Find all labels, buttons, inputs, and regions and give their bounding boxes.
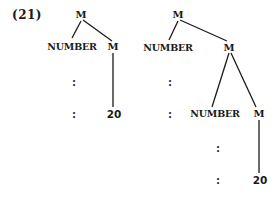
edge-t2-m-right: [231, 53, 256, 107]
tree2-inner-right-node: M: [253, 109, 264, 119]
tree1-leaf-node: 20: [107, 109, 122, 120]
tree2-inner-ellipsis-2: :: [216, 175, 220, 186]
tree2-inner-ellipsis-1: :: [216, 143, 220, 154]
edge-t2-m-left: [212, 53, 229, 107]
example-number: (21): [12, 8, 42, 22]
edge-t1-root-right: [83, 20, 112, 41]
tree1-ellipsis-2: :: [72, 109, 76, 120]
tree2-outer-ellipsis-1: :: [168, 77, 172, 88]
tree2-left-node: NUMBER: [143, 43, 192, 53]
tree1-ellipsis-1: :: [72, 77, 76, 88]
edge-t2-root-left: [169, 21, 178, 40]
tree-diagram: (21) M NUMBER M : : 20 M NUMBER M : : NU…: [0, 0, 279, 197]
tree1-right-node: M: [107, 42, 118, 52]
tree2-outer-ellipsis-2: :: [168, 109, 172, 120]
tree2-inner-left-node: NUMBER: [190, 109, 239, 119]
edge-t1-root-left: [72, 21, 81, 38]
tree2-root-node: M: [172, 10, 183, 20]
tree1-root-node: M: [75, 10, 86, 20]
tree-edges: [0, 0, 279, 197]
tree2-leaf-node: 20: [253, 175, 268, 186]
edge-t2-root-right: [180, 20, 227, 41]
tree2-right-node: M: [223, 43, 234, 53]
tree1-left-node: NUMBER: [47, 42, 96, 52]
